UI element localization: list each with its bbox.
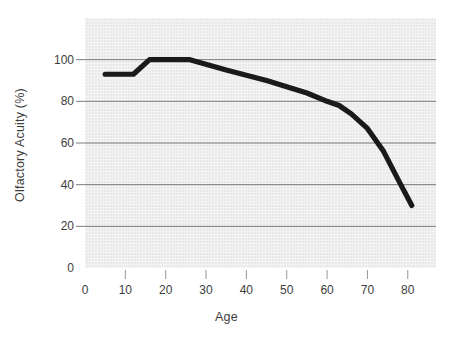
x-axis-tick-label: 50 [280,283,293,297]
x-axis-tick-label: 80 [401,283,414,297]
y-axis-tick-labels: 020406080100 [42,0,74,350]
data-series-line [105,60,412,206]
x-axis-tick-label: 60 [320,283,333,297]
x-axis-tick-label: 20 [159,283,172,297]
y-axis-tick-label: 20 [44,219,74,233]
y-axis-tick-label: 60 [44,136,74,150]
x-axis-tick-label: 70 [361,283,374,297]
plot-svg [85,18,436,268]
y-axis-tick-label: 100 [44,53,74,67]
x-axis-tick-label: 10 [119,283,132,297]
y-axis-tick-label: 40 [44,178,74,192]
y-axis-tick-label: 0 [44,261,74,275]
olfactory-acuity-chart: Olfactory Acuity (%) 020406080100 010203… [0,0,453,350]
x-axis-tick-label: 30 [199,283,212,297]
y-axis-label: Olfactory Acuity (%) [13,88,27,202]
plot-area [85,18,436,268]
y-axis-tick-label: 80 [44,94,74,108]
x-axis-label: Age [0,310,453,324]
x-axis-tick-label: 40 [240,283,253,297]
x-axis-tick-label: 0 [82,283,89,297]
y-axis-label-container: Olfactory Acuity (%) [0,0,40,290]
gridlines [85,60,436,227]
